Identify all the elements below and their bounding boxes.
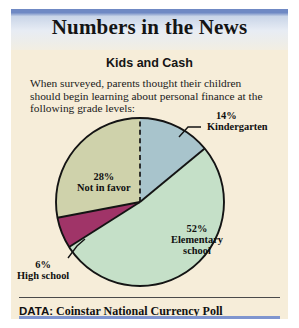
pie-label-elementary-pct: 52% (171, 223, 223, 234)
page-title: Numbers in the News (11, 15, 288, 40)
pie-label-high-school: 6% High school (17, 260, 69, 282)
footer-accent-bar (19, 316, 280, 319)
chart-subtitle: Kids and Cash (11, 56, 288, 70)
infographic-frame: Numbers in the News Kids and Cash When s… (11, 9, 288, 319)
pie-graphic: L I B E R T Y IN GOD WE TRUST (55, 117, 225, 287)
source-footer: DATA:Coinstar National Currency Poll (19, 301, 280, 315)
pie-label-high-school-name: High school (17, 270, 69, 281)
pie-label-elementary-name: Elementary (171, 234, 223, 245)
footer-divider (19, 297, 280, 298)
pie-label-elementary-name2: school (183, 245, 211, 256)
pie-slices (55, 117, 225, 287)
pie-label-not-in-favor-name: Not in favor (77, 182, 131, 193)
pie-slice-not-in-favor (56, 118, 140, 218)
pie-chart: L I B E R T Y IN GOD WE TRUST (11, 113, 288, 293)
pie-label-elementary: 52% Elementary school (171, 223, 223, 257)
pie-label-not-in-favor: 28% Not in favor (77, 172, 131, 194)
title-banner: Numbers in the News (11, 9, 288, 50)
pie-label-kindergarten: 14% Kindergarten (207, 111, 268, 133)
pie-label-kindergarten-name: Kindergarten (207, 121, 268, 132)
